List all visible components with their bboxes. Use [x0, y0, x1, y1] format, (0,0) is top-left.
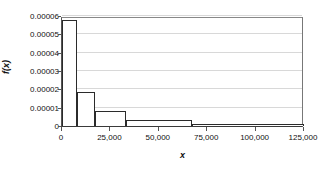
x-tick-mark [158, 127, 159, 131]
y-tick-label: 0.00006 [1, 13, 59, 21]
x-axis: 025,00050,00075,000100,000125,000 [61, 127, 304, 149]
y-tick-label: 0.00001 [1, 105, 59, 113]
histogram-bar [192, 124, 304, 126]
histogram-bar [62, 20, 77, 126]
gridline [62, 52, 302, 53]
histogram-bar [77, 92, 94, 126]
x-tick-mark [206, 127, 207, 131]
gridline [62, 33, 302, 34]
x-tick-mark [303, 127, 304, 131]
y-tick-label: 0.00005 [1, 31, 59, 39]
histogram-bar [126, 120, 192, 126]
plot-area [61, 17, 303, 127]
x-tick-label: 75,000 [194, 133, 218, 142]
histogram-bar [95, 111, 126, 126]
x-tick-label: 25,000 [97, 133, 121, 142]
x-tick-label: 0 [59, 133, 63, 142]
y-tick-label: 0.00002 [1, 86, 59, 94]
gridline [62, 70, 302, 71]
x-tick-mark [255, 127, 256, 131]
x-tick-label: 125,000 [289, 133, 318, 142]
y-axis-title: f(x) [1, 47, 11, 87]
x-axis-title: x [61, 150, 304, 160]
histogram-chart: 00.000010.000020.000030.000040.000050.00… [0, 0, 334, 171]
gridline [62, 107, 302, 108]
x-tick-mark [61, 127, 62, 131]
x-tick-label: 100,000 [240, 133, 269, 142]
gridline [62, 88, 302, 89]
x-tick-mark [109, 127, 110, 131]
y-tick-label: 0 [1, 123, 59, 131]
x-tick-label: 50,000 [146, 133, 170, 142]
gridline [62, 15, 302, 16]
